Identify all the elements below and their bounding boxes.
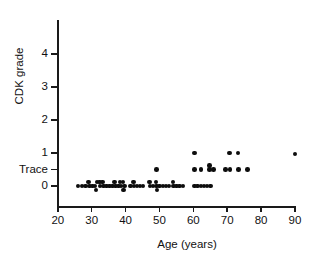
data-point bbox=[141, 184, 146, 189]
data-point bbox=[245, 167, 250, 172]
data-point bbox=[236, 151, 241, 156]
x-tick-label-90: 90 bbox=[289, 215, 302, 227]
x-tick-label-60: 60 bbox=[187, 215, 200, 227]
data-point bbox=[154, 167, 159, 172]
y-tick-3 bbox=[51, 86, 57, 88]
x-tick-label-70: 70 bbox=[221, 215, 234, 227]
data-point bbox=[199, 167, 204, 172]
data-point bbox=[181, 184, 186, 189]
plot-area: 0Trace1234 2030405060708090 Age (years) … bbox=[0, 0, 316, 261]
y-tick-4 bbox=[51, 53, 57, 55]
x-axis-line bbox=[57, 206, 295, 208]
x-tick-label-80: 80 bbox=[255, 215, 268, 227]
y-tick-label-Trace: Trace bbox=[19, 164, 48, 176]
data-point bbox=[228, 167, 233, 172]
data-point bbox=[227, 151, 232, 156]
data-point bbox=[155, 188, 160, 193]
x-tick-90 bbox=[294, 206, 296, 212]
data-point bbox=[94, 188, 99, 193]
x-tick-20 bbox=[57, 206, 59, 212]
y-tick-1 bbox=[51, 152, 57, 154]
x-tick-label-50: 50 bbox=[153, 215, 166, 227]
y-tick-label-3: 3 bbox=[42, 81, 48, 93]
x-tick-50 bbox=[159, 206, 161, 212]
x-tick-40 bbox=[125, 206, 127, 212]
y-tick-label-4: 4 bbox=[42, 48, 48, 60]
data-point bbox=[211, 167, 216, 172]
data-point bbox=[293, 152, 298, 157]
y-axis-title: CDK grade bbox=[13, 21, 25, 131]
x-tick-80 bbox=[260, 206, 262, 212]
y-tick-2 bbox=[51, 119, 57, 121]
data-point bbox=[192, 167, 197, 172]
y-tick-label-2: 2 bbox=[42, 114, 48, 126]
x-axis-title: Age (years) bbox=[0, 238, 316, 250]
scatter-plot-figure: 0Trace1234 2030405060708090 Age (years) … bbox=[0, 0, 316, 261]
x-tick-30 bbox=[91, 206, 93, 212]
x-tick-60 bbox=[193, 206, 195, 212]
y-axis-line bbox=[57, 20, 59, 208]
x-tick-label-30: 30 bbox=[85, 215, 98, 227]
y-tick-label-1: 1 bbox=[42, 147, 48, 159]
data-point bbox=[236, 167, 241, 172]
x-tick-label-20: 20 bbox=[51, 215, 64, 227]
data-point bbox=[122, 184, 127, 189]
x-tick-70 bbox=[226, 206, 228, 212]
x-tick-label-40: 40 bbox=[119, 215, 132, 227]
y-tick-0 bbox=[51, 185, 57, 187]
data-point bbox=[192, 151, 197, 156]
data-point bbox=[208, 184, 213, 189]
y-tick-Trace bbox=[51, 169, 57, 171]
data-point bbox=[121, 188, 126, 193]
y-tick-label-0: 0 bbox=[42, 180, 48, 192]
